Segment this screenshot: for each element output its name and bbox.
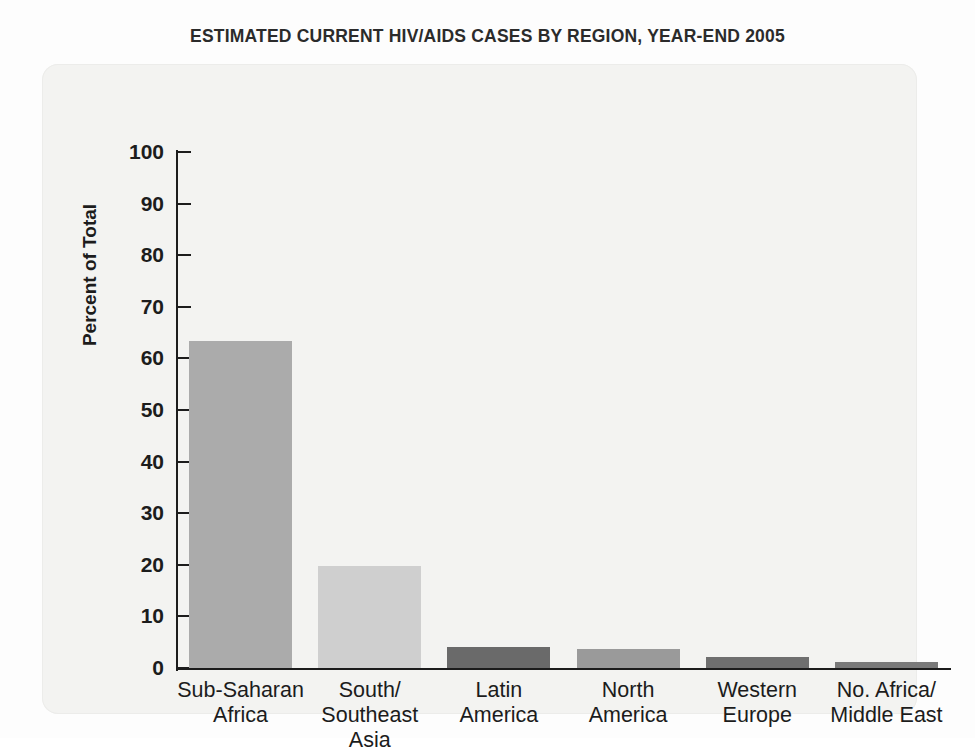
y-axis-title: Percent of Total bbox=[79, 115, 101, 435]
y-axis-tick-label: 70 bbox=[76, 296, 164, 317]
bar bbox=[447, 647, 550, 668]
y-axis-tick bbox=[178, 254, 191, 256]
bar bbox=[189, 341, 292, 668]
y-axis-tick-label: 40 bbox=[76, 451, 164, 472]
y-axis-tick bbox=[178, 306, 191, 308]
y-axis-tick-label: 60 bbox=[76, 347, 164, 368]
chart-panel: Percent of Total 1009080706050403020100 … bbox=[42, 64, 917, 714]
bar bbox=[706, 657, 809, 668]
chart-title: ESTIMATED CURRENT HIV/AIDS CASES BY REGI… bbox=[0, 26, 975, 47]
y-axis-tick bbox=[178, 203, 191, 205]
y-axis-tick-label: 0 bbox=[76, 657, 164, 678]
y-axis-tick-label: 80 bbox=[76, 244, 164, 265]
y-axis-tick-label: 20 bbox=[76, 554, 164, 575]
x-axis-category-label: No. Africa/ Middle East bbox=[791, 678, 975, 728]
bar bbox=[835, 662, 938, 668]
x-axis-line bbox=[176, 668, 951, 670]
y-axis-tick-label: 90 bbox=[76, 193, 164, 214]
y-axis-tick-label: 30 bbox=[76, 502, 164, 523]
bar bbox=[318, 566, 421, 668]
y-axis-tick-label: 100 bbox=[76, 141, 164, 162]
y-axis-tick-label: 10 bbox=[76, 605, 164, 626]
bar bbox=[577, 649, 680, 668]
y-axis-tick-label: 50 bbox=[76, 399, 164, 420]
y-axis-tick bbox=[178, 151, 191, 153]
